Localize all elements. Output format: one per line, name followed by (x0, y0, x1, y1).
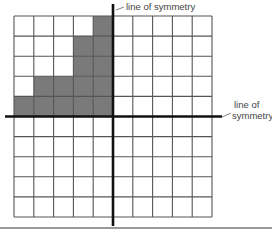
horizontal-axis-label-line1: line of (234, 99, 260, 110)
shaded-cell (93, 96, 113, 116)
shaded-cell (34, 76, 54, 96)
shaded-cell (54, 96, 74, 116)
shaded-cell (73, 56, 93, 76)
horizontal-axis-label-line2: symmetry (232, 110, 272, 121)
shaded-cell (93, 76, 113, 96)
symmetry-diagram: line of symmetry line of symmetry (0, 0, 272, 232)
horizontal-axis-label-leader (222, 113, 231, 117)
vertical-axis-label: line of symmetry (126, 1, 195, 12)
shaded-cell (73, 76, 93, 96)
shaded-cell (93, 36, 113, 56)
shaded-cells (14, 16, 113, 117)
bottom-divider (0, 227, 272, 229)
shaded-cell (73, 36, 93, 56)
shaded-cell (14, 96, 34, 116)
shaded-cell (93, 56, 113, 76)
shaded-cell (73, 96, 93, 116)
shaded-cell (93, 16, 113, 36)
shaded-cell (34, 96, 54, 116)
vertical-axis-label-leader (116, 7, 124, 10)
shaded-cell (54, 76, 74, 96)
